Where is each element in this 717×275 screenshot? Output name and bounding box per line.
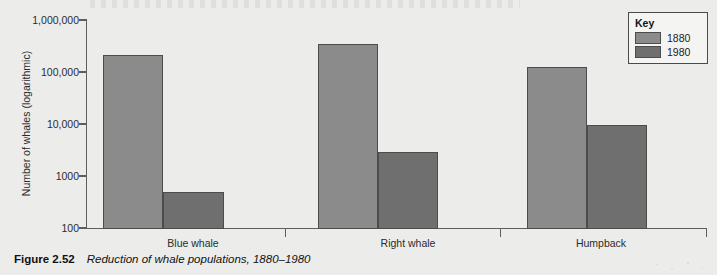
legend-item-1880[interactable]: 1880 [635, 32, 701, 44]
y-tick-mark [79, 19, 87, 20]
bar-right-whale-1880[interactable] [318, 44, 378, 229]
scan-speckle [651, 259, 711, 273]
bar-humpback-1980[interactable] [587, 125, 647, 229]
figure-caption-label: Figure 2.52 [14, 253, 75, 265]
bar-blue-whale-1880[interactable] [103, 55, 163, 229]
y-tick-mark [79, 227, 87, 228]
x-category-label-humpback: Humpback [576, 238, 626, 249]
bar-right-whale-1980[interactable] [378, 152, 438, 229]
figure-caption: Figure 2.52Reduction of whale population… [14, 252, 311, 266]
x-category-label-right-whale: Right whale [381, 238, 436, 249]
legend: Key 1880 1980 [628, 12, 708, 64]
legend-swatch-1880 [635, 32, 661, 44]
bar-humpback-1880[interactable] [527, 67, 587, 229]
legend-swatch-1980 [635, 46, 661, 58]
x-tick-mark-3 [706, 229, 707, 237]
legend-title: Key [635, 17, 701, 29]
legend-label-1980: 1980 [667, 46, 690, 58]
figure-container: Number of whales (logarithmic) 1,000,000… [0, 0, 717, 275]
legend-item-1980[interactable]: 1980 [635, 46, 701, 58]
bar-chart: Number of whales (logarithmic) 1,000,000… [0, 0, 717, 240]
y-tick-label: 10,000 [7, 119, 79, 130]
x-tick-mark-2 [500, 229, 501, 237]
bar-blue-whale-1980[interactable] [163, 192, 224, 229]
y-tick-mark [79, 175, 87, 176]
y-tick-mark [79, 71, 87, 72]
y-tick-label: 100 [7, 223, 79, 234]
y-tick-label: 100,000 [7, 67, 79, 78]
figure-caption-text: Reduction of whale populations, 1880–198… [87, 253, 311, 265]
y-tick-label: 1,000,000 [7, 15, 79, 26]
x-category-label-blue-whale: Blue whale [167, 238, 218, 249]
y-tick-mark [79, 123, 87, 124]
y-tick-label: 1000 [7, 171, 79, 182]
x-tick-mark-1 [285, 229, 286, 237]
legend-label-1880: 1880 [667, 32, 690, 44]
